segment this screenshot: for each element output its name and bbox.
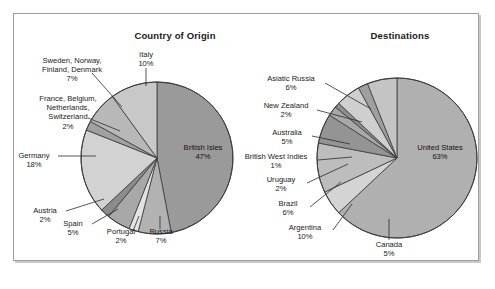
pie-center-label-destinations-name: United States — [417, 143, 463, 152]
label-origin-russia-name: Russia — [149, 227, 172, 236]
label-dest-british-west-indies: British West Indies 1% — [235, 152, 317, 170]
label-dest-british-west-indies-pct: 1% — [235, 161, 317, 170]
label-origin-portugal: Portugal 2% — [99, 227, 143, 245]
pie-center-label-destinations-pct: 63% — [432, 152, 447, 161]
label-dest-canada: Canada 5% — [368, 240, 410, 258]
label-origin-russia: Russia 7% — [143, 227, 179, 245]
pie-center-label-origin-pct: 47% — [195, 152, 210, 161]
label-dest-argentina: Argentina 10% — [279, 223, 331, 241]
label-dest-brazil-pct: 6% — [268, 208, 308, 217]
label-dest-new-zealand: New Zealand 2% — [255, 101, 317, 119]
label-origin-scandinavia-line1: Sweden, Norway, — [43, 56, 102, 65]
label-origin-spain-name: Spain — [63, 219, 82, 228]
label-dest-british-west-indies-name: British West Indies — [245, 152, 308, 161]
label-dest-canada-name: Canada — [376, 240, 403, 249]
label-origin-lowlands-line1: France, Belgium, — [39, 94, 96, 103]
label-origin-lowlands-pct: 2% — [14, 122, 122, 131]
label-dest-uruguay: Uruguay 2% — [257, 175, 305, 193]
label-dest-argentina-pct: 10% — [279, 232, 331, 241]
label-origin-italy: Italy 10% — [126, 50, 166, 68]
pie-center-label-origin-name: British Isles — [184, 143, 223, 152]
label-origin-spain-pct: 5% — [54, 228, 92, 237]
label-dest-uruguay-pct: 2% — [257, 184, 305, 193]
pie-center-label-destinations: United States 63% — [402, 143, 478, 162]
label-origin-lowlands-line2: Netherlands, — [46, 103, 89, 112]
label-origin-lowlands: France, Belgium, Netherlands, Switzerlan… — [14, 94, 122, 131]
label-origin-spain: Spain 5% — [54, 219, 92, 237]
label-origin-germany: Germany 18% — [12, 151, 56, 169]
label-dest-asiatic-russia-pct: 6% — [258, 83, 324, 92]
label-origin-scandinavia-pct: 7% — [22, 74, 122, 83]
label-dest-new-zealand-name: New Zealand — [264, 101, 309, 110]
label-origin-italy-name: Italy — [139, 50, 153, 59]
label-origin-austria-name: Austria — [33, 206, 57, 215]
label-dest-uruguay-name: Uruguay — [267, 175, 296, 184]
pie-center-label-origin: British Isles 47% — [166, 143, 240, 162]
label-dest-australia-name: Australia — [272, 128, 302, 137]
label-origin-scandinavia-line2: Finland, Denmark — [42, 65, 102, 74]
label-origin-portugal-name: Portugal — [107, 227, 135, 236]
label-origin-portugal-pct: 2% — [99, 236, 143, 245]
label-dest-asiatic-russia: Asiatic Russia 6% — [258, 74, 324, 92]
label-origin-lowlands-line3: Switzerland — [48, 112, 87, 121]
label-dest-australia-pct: 5% — [263, 137, 311, 146]
label-origin-germany-pct: 18% — [12, 160, 56, 169]
label-origin-scandinavia: Sweden, Norway, Finland, Denmark 7% — [22, 56, 122, 84]
figure-root: Country of Origin Destinations — [0, 0, 495, 289]
label-dest-new-zealand-pct: 2% — [255, 110, 317, 119]
label-dest-canada-pct: 5% — [368, 249, 410, 258]
label-dest-brazil-name: Brazil — [279, 199, 298, 208]
label-origin-italy-pct: 10% — [126, 59, 166, 68]
label-dest-australia: Australia 5% — [263, 128, 311, 146]
label-origin-germany-name: Germany — [18, 151, 49, 160]
label-dest-asiatic-russia-name: Asiatic Russia — [267, 74, 315, 83]
label-dest-brazil: Brazil 6% — [268, 199, 308, 217]
label-dest-argentina-name: Argentina — [289, 223, 322, 232]
label-origin-russia-pct: 7% — [143, 236, 179, 245]
